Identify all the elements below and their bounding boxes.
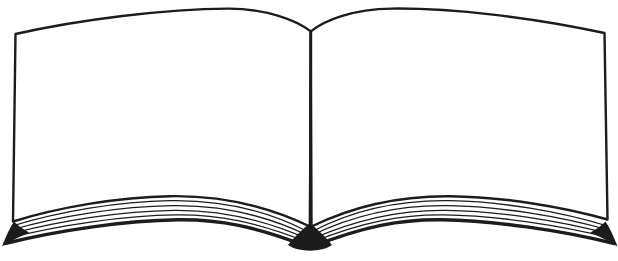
left-page — [13, 9, 311, 227]
right-corner-blob — [591, 222, 618, 247]
spine-line — [310, 32, 311, 226]
book-drawing-svg — [0, 0, 618, 261]
open-book-illustration — [0, 0, 618, 261]
left-corner-blob — [2, 222, 29, 247]
right-page — [311, 9, 608, 227]
